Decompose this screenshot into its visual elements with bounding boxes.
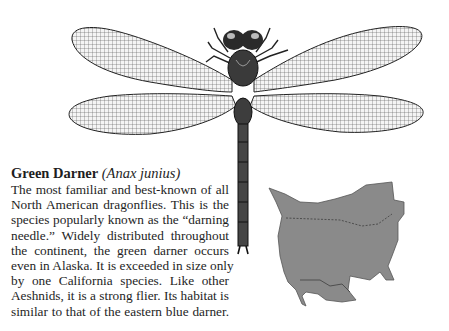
description-line: the continent, the green darner occurs — [11, 243, 229, 258]
left-hindwing — [69, 94, 236, 135]
description-line: needle.” Widely distributed throughout — [11, 228, 229, 243]
right-forewing — [254, 27, 422, 92]
north-america-range-map — [269, 182, 404, 306]
description-line: species popularly known as the “darning — [11, 212, 229, 227]
species-title: Green Darner (Anax junius) — [11, 165, 229, 182]
species-description: Green Darner (Anax junius) The most fami… — [11, 165, 229, 319]
description-line: North American dragonflies. This is the — [11, 197, 229, 212]
right-eye — [241, 30, 263, 50]
abdomen-base — [234, 98, 252, 126]
description-line: similar to that of the eastern blue darn… — [11, 304, 229, 319]
right-hindwing — [250, 94, 423, 133]
common-name: Green Darner — [11, 165, 98, 181]
description-line: even in Alaska. It is exceeded in size o… — [11, 258, 229, 273]
description-line: The most familiar and best-known of all — [11, 182, 229, 197]
description-line: by one California species. Like other — [11, 273, 229, 288]
thorax — [228, 50, 258, 86]
scientific-name: (Anax junius) — [102, 165, 181, 181]
description-paragraph: The most familiar and best-known of all … — [11, 182, 229, 319]
description-line: Aeshnids, it is a strong flier. Its habi… — [11, 288, 229, 303]
